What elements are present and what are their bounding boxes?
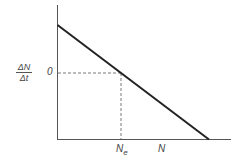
zero-label: 0 [47,66,53,77]
y-axis-label: ΔN Δt [16,62,32,83]
equilibrium-label: Ne [116,143,128,157]
x-axis-label: N [158,143,165,154]
y-axis-label-denominator: Δt [16,73,32,83]
equilibrium-label-subscript: e [123,148,127,157]
rate-line [58,25,210,140]
y-axis-label-numerator: ΔN [16,62,32,73]
diagram-canvas [0,0,247,159]
